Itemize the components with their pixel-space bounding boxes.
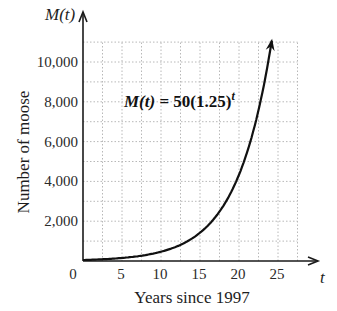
x-tick-label: 5 bbox=[117, 266, 125, 282]
x-axis-title: Years since 1997 bbox=[134, 288, 250, 307]
x-tick-label: 25 bbox=[270, 266, 285, 282]
y-tick-label: 2,000 bbox=[44, 213, 78, 229]
equation-coefficient: 50(1.25) bbox=[173, 92, 231, 111]
x-tick-label: 15 bbox=[192, 266, 207, 282]
y-tick-label: 8,000 bbox=[44, 94, 78, 110]
equation-exponent: t bbox=[231, 89, 235, 103]
y-tick-label: 4,000 bbox=[44, 173, 78, 189]
y-tick-label: 6,000 bbox=[44, 134, 78, 150]
axes bbox=[79, 12, 318, 265]
equation-lhs: M(t) bbox=[123, 92, 155, 111]
x-axis-symbol: t bbox=[320, 268, 326, 287]
y-tick-labels: 2,0004,0006,0008,00010,000 bbox=[37, 54, 78, 229]
chart: 0510152025 2,0004,0006,0008,00010,000 M(… bbox=[0, 0, 337, 311]
x-tick-label: 10 bbox=[153, 266, 168, 282]
equation-equals: = bbox=[155, 92, 173, 111]
function-equation: M(t) = 50(1.25)t bbox=[123, 89, 235, 111]
x-tick-labels: 0510152025 bbox=[69, 266, 284, 282]
y-axis-title: Number of moose bbox=[14, 91, 33, 214]
x-tick-label: 20 bbox=[231, 266, 246, 282]
y-axis-symbol: M(t) bbox=[44, 5, 76, 24]
exponential-curve bbox=[83, 41, 272, 260]
x-tick-label: 0 bbox=[69, 266, 77, 282]
y-tick-label: 10,000 bbox=[37, 54, 78, 70]
